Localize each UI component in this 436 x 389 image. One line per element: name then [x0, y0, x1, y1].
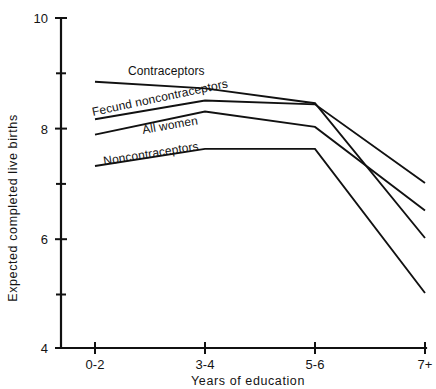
- series-lines-group: [95, 82, 425, 293]
- x-axis-tick-labels: 0-2 3-4 5-6 7+: [86, 357, 433, 372]
- x-tick-label-5-6: 5-6: [306, 357, 325, 372]
- y-axis-title: Expected completed live births: [6, 114, 20, 302]
- series-line-noncontraceptors: [95, 149, 425, 293]
- y-tick-label-4: 4: [41, 341, 48, 356]
- y-tick-label-10: 10: [34, 11, 48, 26]
- series-label-all-women: All women: [141, 113, 199, 137]
- x-tick-label-3-4: 3-4: [196, 357, 215, 372]
- axes-group: [61, 18, 426, 348]
- x-tick-label-7-plus: 7+: [418, 357, 433, 372]
- series-line-fecund-noncontraceptors: [95, 101, 425, 184]
- x-tick-label-0-2: 0-2: [86, 357, 105, 372]
- axis-lines: [61, 18, 426, 348]
- series-label-noncontraceptors: Noncontraceptors: [102, 139, 199, 168]
- y-tick-label-6: 6: [41, 232, 48, 247]
- y-tick-label-8: 8: [41, 122, 48, 137]
- x-axis-title: Years of education: [191, 374, 305, 388]
- series-label-contraceptors: Contraceptors: [128, 64, 205, 78]
- y-axis-tick-labels: 10 8 6 4: [34, 11, 48, 356]
- line-chart-canvas: 10 8 6 4 0-2 3-4 5-6 7+ Years of educati…: [0, 0, 436, 389]
- chart-figure: 10 8 6 4 0-2 3-4 5-6 7+ Years of educati…: [0, 0, 436, 389]
